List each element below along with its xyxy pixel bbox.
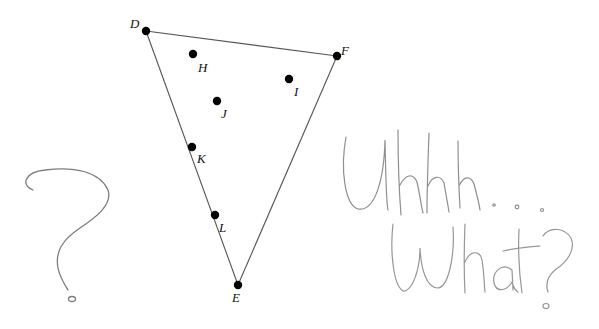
label-I: I [294,85,298,98]
geometry-diagram [0,0,599,329]
point-E [234,281,242,289]
label-D: D [130,17,139,30]
label-L: L [219,221,226,234]
edge-ED [146,31,238,285]
point-J [213,97,221,105]
points [142,27,341,289]
handwritten-uhhh [343,130,543,215]
label-J: J [221,107,227,120]
point-D [142,27,150,35]
triangle-edges [146,31,337,285]
label-E: E [232,291,240,304]
point-H [189,50,197,58]
point-F [333,52,341,60]
point-L [211,211,219,219]
label-F: F [341,44,349,57]
label-H: H [198,61,207,74]
handwritten-what [392,224,573,309]
edge-FE [238,56,337,285]
point-I [285,75,293,83]
label-K: K [197,152,206,165]
handwritten-question-mark [26,169,109,302]
edge-DF [146,31,337,56]
point-K [188,143,196,151]
